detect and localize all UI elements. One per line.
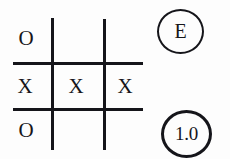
- grid-vertical-line-right: [103, 19, 106, 150]
- board-cell-r1c2[interactable]: X: [111, 76, 139, 97]
- letter-badge: E: [157, 9, 204, 54]
- grid-horizontal-line-top: [13, 62, 143, 65]
- value-badge: 1.0: [161, 110, 212, 158]
- grid-vertical-line-left: [51, 18, 54, 150]
- tic-tac-toe-figure: O X X X O E 1.0: [0, 0, 230, 159]
- value-badge-label: 1.0: [175, 124, 198, 144]
- grid-horizontal-line-bottom: [13, 108, 143, 111]
- board-cell-r1c0[interactable]: X: [11, 76, 39, 97]
- board-cell-r0c0[interactable]: O: [12, 28, 40, 49]
- letter-badge-label: E: [174, 21, 186, 42]
- board-cell-r2c0[interactable]: O: [12, 120, 40, 141]
- board-cell-r1c1[interactable]: X: [62, 76, 90, 97]
